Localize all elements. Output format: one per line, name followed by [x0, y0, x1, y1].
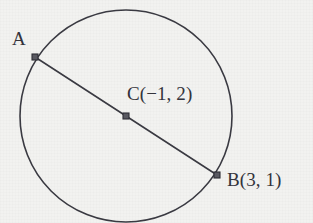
- point-label-c: C(−1, 2): [127, 84, 192, 103]
- point-label-b: B(3, 1): [227, 170, 282, 189]
- point-marker-b: [214, 172, 220, 178]
- circle-diagram-figure: A C(−1, 2) B(3, 1): [0, 0, 313, 223]
- point-label-a: A: [12, 29, 26, 48]
- point-marker-a: [32, 54, 38, 60]
- point-marker-c: [123, 113, 129, 119]
